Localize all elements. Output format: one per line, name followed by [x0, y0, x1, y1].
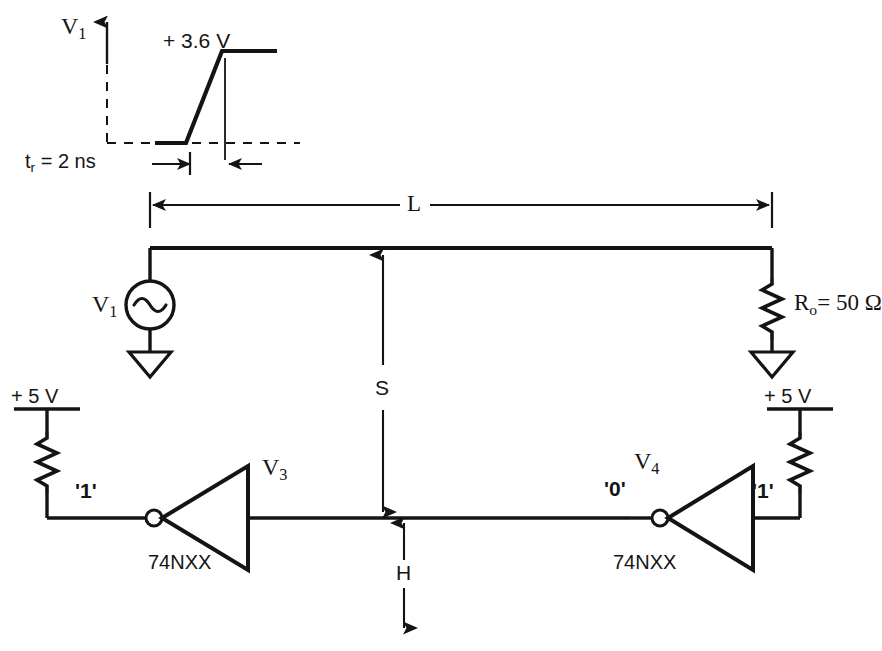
input-state-left: '1' [75, 480, 97, 501]
source-label: V1 [92, 292, 118, 321]
device-label-left: 74NXX [148, 552, 211, 572]
length-label: L [407, 192, 421, 215]
transmission-line-circuit [126, 248, 793, 377]
waveform-amplitude-label: + 3.6 V [163, 30, 230, 51]
ground-symbol-termination [751, 352, 793, 377]
waveform-trace [155, 51, 277, 143]
pullup-resistor-left [37, 432, 57, 494]
supply-label-left: + 5 V [11, 386, 58, 406]
length-dimension [150, 192, 772, 228]
node-label-v3: V3 [262, 455, 288, 484]
height-label: H [396, 562, 411, 583]
pullup-resistor-right [790, 432, 810, 494]
inverter-triangle-right [668, 466, 753, 570]
device-label-right: 74NXX [613, 552, 676, 572]
separation-label: S [375, 377, 389, 398]
left-logic-stage [14, 409, 383, 570]
ground-symbol-source [129, 352, 171, 377]
sine-wave-glyph [134, 299, 166, 312]
node-label-v4: V4 [634, 449, 660, 478]
termination-label: Ro= 50 Ω [794, 291, 882, 318]
termination-resistor-symbol [762, 278, 782, 340]
rise-time-label: tr = 2 ns [25, 151, 96, 175]
output-state-right: '1' [752, 480, 774, 501]
input-state-right: '0' [604, 478, 626, 499]
waveform-y-axis-label: V1 [61, 14, 87, 43]
right-logic-stage [630, 409, 833, 570]
supply-label-right: + 5 V [764, 386, 811, 406]
